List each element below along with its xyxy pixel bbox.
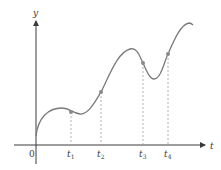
tick-label-t3: t3: [139, 149, 147, 160]
curve-points: [69, 52, 170, 114]
tick-label-t2: t2: [97, 149, 105, 160]
point-t1: [69, 110, 73, 114]
point-t3: [141, 61, 145, 65]
drop-lines: [71, 54, 168, 145]
graph: y t 0 t1 t2 t3 t4: [0, 0, 221, 170]
tick-label-t1: t1: [67, 149, 74, 160]
x-axis-label: t: [210, 141, 214, 151]
origin-label: 0: [29, 149, 35, 159]
y-axis-label: y: [32, 8, 39, 18]
function-curve: [36, 23, 193, 136]
point-t2: [99, 90, 103, 94]
tick-label-t4: t4: [164, 149, 172, 160]
point-t4: [166, 52, 170, 56]
tick-labels: t1 t2 t3 t4: [67, 149, 172, 160]
